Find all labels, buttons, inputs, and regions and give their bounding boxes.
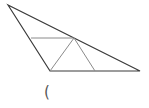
triangle-diagram bbox=[0, 0, 149, 108]
left-diagonal-segment bbox=[50, 38, 74, 71]
answer-paren: ( bbox=[44, 85, 50, 100]
